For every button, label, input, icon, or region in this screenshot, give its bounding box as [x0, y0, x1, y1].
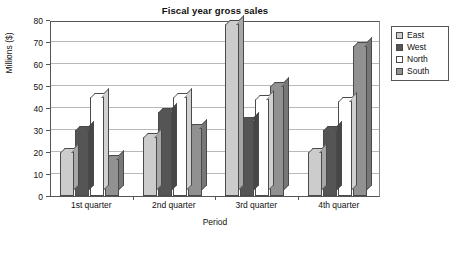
- y-tick-label: 10: [23, 171, 43, 180]
- bar-side-face: [269, 90, 274, 190]
- bar-side-face: [284, 77, 289, 190]
- plot-area: [50, 21, 380, 197]
- legend-item-south[interactable]: South: [396, 66, 444, 77]
- bar-side-face: [89, 121, 94, 190]
- bar-side-face: [352, 92, 357, 190]
- bar-side-face: [187, 88, 192, 190]
- legend-swatch-icon: [396, 68, 403, 75]
- x-axis-ticks: 1st quarter2nd quarter3rd quarter4th qua…: [50, 200, 380, 214]
- bar-side-face: [202, 119, 207, 190]
- bar-side-face: [239, 15, 244, 190]
- gridline: [51, 41, 379, 42]
- bar[interactable]: [308, 152, 322, 196]
- legend-label: West: [407, 43, 426, 52]
- x-tick-mark: [298, 197, 299, 200]
- legend-item-north[interactable]: North: [396, 54, 444, 65]
- bar-side-face: [157, 128, 162, 190]
- legend-item-west[interactable]: West: [396, 42, 444, 53]
- bar-side-face: [104, 88, 109, 190]
- x-tick-label: 1st quarter: [50, 200, 133, 210]
- y-axis-title: Millions ($): [4, 8, 14, 98]
- bar[interactable]: [60, 152, 74, 196]
- y-tick-label: 50: [23, 83, 43, 92]
- legend: EastWestNorthSouth: [391, 26, 449, 81]
- bar-side-face: [254, 112, 259, 190]
- y-tick-label: 80: [23, 17, 43, 26]
- bar-side-face: [337, 121, 342, 190]
- legend-swatch-icon: [396, 32, 403, 39]
- bar-side-face: [322, 143, 327, 190]
- x-tick-label: 3rd quarter: [215, 200, 298, 210]
- y-tick-label: 40: [23, 105, 43, 114]
- bar[interactable]: [225, 24, 239, 196]
- legend-item-east[interactable]: East: [396, 30, 444, 41]
- y-tick-label: 30: [23, 127, 43, 136]
- legend-label: East: [407, 31, 424, 40]
- gridline: [51, 63, 379, 64]
- x-axis-title: Period: [50, 217, 380, 227]
- bar-side-face: [367, 37, 372, 190]
- y-tick-label: 20: [23, 149, 43, 158]
- x-tick-mark: [133, 197, 134, 200]
- x-tick-label: 2nd quarter: [133, 200, 216, 210]
- legend-swatch-icon: [396, 44, 403, 51]
- bar-side-face: [119, 150, 124, 190]
- gridline: [51, 85, 379, 86]
- x-tick-label: 4th quarter: [298, 200, 381, 210]
- x-tick-mark: [215, 197, 216, 200]
- bar-side-face: [74, 143, 79, 190]
- y-tick-label: 60: [23, 61, 43, 70]
- y-axis-ticks: 01020304050607080: [24, 21, 50, 197]
- legend-label: South: [407, 67, 429, 76]
- legend-swatch-icon: [396, 56, 403, 63]
- y-tick-label: 70: [23, 39, 43, 48]
- y-tick-label: 0: [23, 193, 43, 202]
- chart-title: Fiscal year gross sales: [50, 5, 380, 16]
- bar[interactable]: [143, 137, 157, 196]
- bar-side-face: [172, 103, 177, 190]
- legend-label: North: [407, 55, 428, 64]
- bar-chart: Fiscal year gross sales Millions ($) 010…: [0, 0, 457, 255]
